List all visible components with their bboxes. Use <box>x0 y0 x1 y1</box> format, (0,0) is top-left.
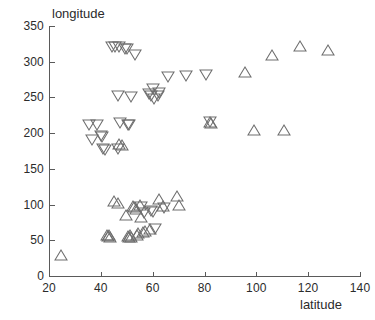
plot-area <box>49 26 360 277</box>
y-tick-label: 100 <box>23 198 44 212</box>
y-tick-label: 300 <box>23 55 44 69</box>
y-tick-label: 50 <box>30 233 44 247</box>
y-tick <box>50 276 55 277</box>
y-tick-label: 200 <box>23 126 44 140</box>
y-tick-label: 250 <box>23 90 44 104</box>
y-tick <box>50 97 55 98</box>
y-tick <box>50 26 55 27</box>
x-tick-label: 100 <box>246 281 267 295</box>
y-axis-title: longitude <box>52 6 105 21</box>
y-axis-tick-labels: 050100150200250300350 <box>0 26 44 277</box>
x-tick <box>308 272 309 277</box>
x-tick <box>256 272 257 277</box>
x-tick-label: 20 <box>42 281 56 295</box>
x-tick <box>153 272 154 277</box>
x-tick-label: 60 <box>146 281 160 295</box>
y-tick-label: 350 <box>23 19 44 33</box>
y-tick <box>50 133 55 134</box>
scatter-plot-figure: longitude latitude 050100150200250300350… <box>0 0 375 320</box>
x-tick <box>360 272 361 277</box>
y-tick <box>50 169 55 170</box>
x-tick-label: 80 <box>198 281 212 295</box>
y-tick <box>50 240 55 241</box>
x-tick <box>205 272 206 277</box>
x-tick <box>49 272 50 277</box>
x-tick-label: 120 <box>298 281 319 295</box>
x-tick-label: 40 <box>94 281 108 295</box>
x-tick <box>101 272 102 277</box>
y-tick <box>50 62 55 63</box>
y-tick-label: 150 <box>23 162 44 176</box>
y-tick <box>50 205 55 206</box>
x-tick-label: 140 <box>350 281 371 295</box>
x-axis-tick-labels: 20406080100120140 <box>49 279 360 299</box>
x-axis-title: latitude <box>300 297 342 312</box>
